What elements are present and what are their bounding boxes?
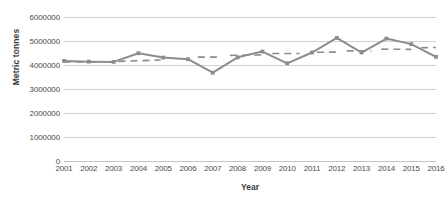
data-point-marker [385, 37, 389, 41]
data-point-marker [310, 51, 314, 55]
data-point-marker [434, 55, 438, 59]
x-tick-label: 2013 [353, 164, 370, 173]
x-tick-label: 2005 [155, 164, 172, 173]
x-tick-label: 2008 [229, 164, 246, 173]
x-axis-title: Year [64, 182, 436, 192]
y-tick-label: 1000000 [30, 133, 60, 142]
plot-area [64, 17, 436, 161]
y-tick-label: 5000000 [30, 37, 60, 46]
y-tick-label: 3000000 [30, 85, 60, 94]
data-point-marker [186, 57, 190, 61]
data-point-marker [409, 42, 413, 46]
y-tick-label: 2000000 [30, 109, 60, 118]
x-tick-label: 2009 [254, 164, 271, 173]
gridline [64, 161, 436, 162]
x-tick-label: 2012 [328, 164, 345, 173]
x-tick-label: 2007 [204, 164, 221, 173]
x-tick-label: 2015 [403, 164, 420, 173]
data-point-marker [211, 71, 215, 75]
data-point-marker [285, 61, 289, 65]
y-tick-label: 4000000 [30, 61, 60, 70]
data-point-marker [261, 50, 265, 54]
x-axis-tick-labels: 2001200220032004200520062007200820092010… [64, 164, 436, 178]
data-point-marker [335, 36, 339, 40]
data-point-marker [137, 51, 141, 55]
x-tick-label: 2003 [105, 164, 122, 173]
y-axis-tick-labels: 6000000500000040000003000000200000010000… [0, 0, 64, 205]
data-point-marker [112, 60, 116, 64]
x-tick-label: 2011 [304, 164, 320, 173]
y-tick-label: 6000000 [30, 13, 60, 22]
series-line [64, 38, 436, 73]
line-chart: Metric tonnes 60000005000000400000030000… [0, 0, 445, 205]
x-tick-label: 2004 [130, 164, 147, 173]
x-tick-label: 2002 [80, 164, 97, 173]
series-layer [64, 17, 436, 161]
x-tick-label: 2014 [378, 164, 395, 173]
trendline-segment [119, 60, 161, 61]
x-tick-label: 2016 [428, 164, 445, 173]
x-tick-label: 2001 [56, 164, 73, 173]
x-tick-label: 2006 [180, 164, 197, 173]
x-tick-label: 2010 [279, 164, 296, 173]
data-point-marker [161, 56, 165, 60]
